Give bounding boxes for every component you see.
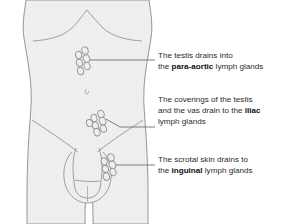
emphasis-term: iliac — [245, 106, 261, 115]
callout-labels: The testis drains intothe para-aortic ly… — [0, 0, 285, 224]
callout-line: The scrotal skin drains to — [158, 154, 253, 165]
callout-line: and the vas drain to the iliac — [158, 105, 261, 116]
emphasis-term: inguinal — [172, 166, 203, 175]
callout-line: the para-aortic lymph glands — [158, 61, 263, 72]
callout-line: lymph glands — [158, 116, 261, 127]
emphasis-term: para-aortic — [172, 62, 214, 71]
callout-line: The coverings of the testis — [158, 94, 261, 105]
callout-inguinal: The scrotal skin drains tothe inguinal l… — [158, 154, 253, 176]
callout-para-aortic: The testis drains intothe para-aortic ly… — [158, 50, 263, 72]
lymphatic-drainage-diagram: The testis drains intothe para-aortic ly… — [0, 0, 285, 224]
callout-line: The testis drains into — [158, 50, 263, 61]
callout-iliac: The coverings of the testisand the vas d… — [158, 94, 261, 128]
callout-line: the inguinal lymph glands — [158, 165, 253, 176]
